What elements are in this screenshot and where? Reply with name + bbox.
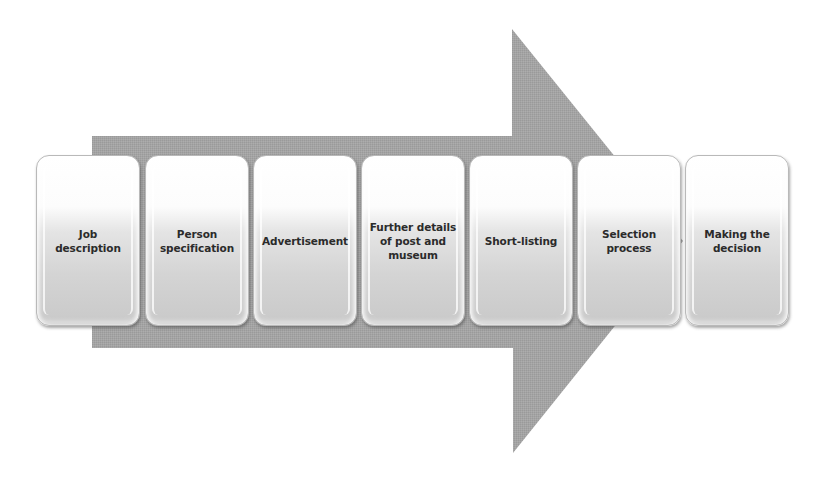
step-making-the-decision[interactable]: Making the decision xyxy=(685,155,789,326)
step-label: Person specification xyxy=(155,227,239,255)
step-label: Advertisement xyxy=(257,234,353,248)
step-label: Job description xyxy=(50,227,126,255)
step-person-specification[interactable]: Person specification xyxy=(145,155,249,326)
recruitment-process-diagram: Job description Person specification Adv… xyxy=(0,0,818,482)
step-further-details[interactable]: Further details of post and museum xyxy=(361,155,465,326)
step-job-description[interactable]: Job description xyxy=(36,155,140,326)
step-short-listing[interactable]: Short-listing xyxy=(469,155,573,326)
step-label: Short-listing xyxy=(480,234,563,248)
step-label: Selection process xyxy=(597,227,661,255)
step-selection-process[interactable]: Selection process xyxy=(577,155,681,326)
step-label: Making the decision xyxy=(699,227,774,255)
step-advertisement[interactable]: Advertisement xyxy=(253,155,357,326)
step-label: Further details of post and museum xyxy=(365,220,461,262)
